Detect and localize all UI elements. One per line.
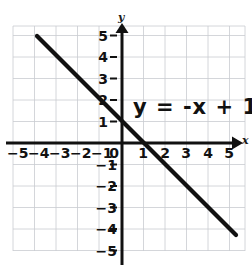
y-tick-label-2: 2: [94, 93, 108, 107]
y-tick-label-4: 4: [94, 50, 108, 64]
equation-label: y = -x + 1: [133, 97, 252, 118]
coordinate-graph-figure: y = -x + 1 y x −5 −4 −3 −2 −1 0 1 2 3 4 …: [0, 0, 252, 273]
y-axis-label: y: [118, 12, 124, 23]
y-tick-label-neg5: −5: [92, 244, 117, 258]
x-axis-label: x: [242, 135, 249, 146]
x-tick-label-4: 4: [201, 146, 215, 160]
x-tick-label-neg2: −2: [70, 146, 86, 160]
x-tick-label-neg5: −5: [7, 146, 23, 160]
y-tick-label-neg4: −4: [92, 222, 117, 236]
y-tick-label-3: 3: [94, 72, 108, 86]
y-tick-label-neg1: −1: [92, 158, 117, 172]
graph-canvas: [0, 0, 252, 273]
x-tick-label-1: 1: [136, 146, 150, 160]
x-tick-label-5: 5: [222, 146, 236, 160]
grid-lines: [13, 26, 245, 251]
y-tick-label-neg2: −2: [92, 179, 117, 193]
y-tick-label-1: 1: [94, 115, 108, 129]
y-tick-label-5: 5: [94, 29, 108, 43]
x-tick-label-neg4: −4: [28, 146, 44, 160]
plotted-line-series: [37, 36, 236, 235]
x-tick-label-3: 3: [179, 146, 193, 160]
x-tick-label-neg3: −3: [49, 146, 65, 160]
x-tick-label-2: 2: [158, 146, 172, 160]
y-tick-label-neg3: −3: [92, 201, 117, 215]
